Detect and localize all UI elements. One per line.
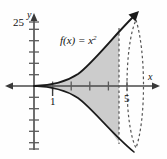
function-label: f(x) = x2 [60, 34, 97, 47]
y-tick-label-25: 25 [13, 16, 25, 28]
x-tick-label-1: 1 [50, 95, 56, 107]
x-axis-arrowhead-right [152, 83, 160, 90]
figure-container: y x 25 1 5 f(x) = x2 [0, 0, 167, 159]
graph-canvas: y x 25 1 5 f(x) = x2 [0, 0, 167, 159]
y-axis-label: y [26, 9, 32, 20]
dashed-ellipse-cross-section [127, 20, 144, 148]
function-label-text: f(x) = x [60, 34, 93, 47]
y-axis-arrowhead [31, 13, 38, 21]
x-tick-label-5: 5 [124, 92, 130, 104]
function-label-exponent: 2 [93, 34, 97, 42]
x-axis-arrowhead-left [5, 83, 13, 90]
x-axis-label: x [147, 71, 153, 82]
